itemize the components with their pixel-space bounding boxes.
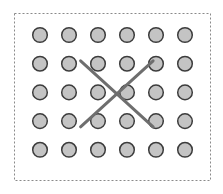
dot: [62, 85, 77, 100]
dot-grid-diagram: [0, 0, 223, 194]
dot: [91, 28, 106, 43]
dot: [62, 28, 77, 43]
dot: [33, 114, 48, 129]
dot: [178, 114, 193, 129]
dot: [33, 85, 48, 100]
dot: [62, 114, 77, 129]
dot: [120, 56, 135, 71]
dot: [120, 28, 135, 43]
dot: [149, 85, 164, 100]
dot: [178, 85, 193, 100]
dot: [149, 28, 164, 43]
dot: [91, 56, 106, 71]
dot: [120, 143, 135, 158]
dot-grid: [33, 28, 193, 157]
dot: [149, 143, 164, 158]
dot: [91, 85, 106, 100]
dot: [33, 56, 48, 71]
dot: [178, 56, 193, 71]
dot: [91, 143, 106, 158]
dot: [62, 56, 77, 71]
dot: [178, 143, 193, 158]
dot: [120, 114, 135, 129]
dot: [33, 28, 48, 43]
dot: [33, 143, 48, 158]
dot: [62, 143, 77, 158]
dot: [178, 28, 193, 43]
